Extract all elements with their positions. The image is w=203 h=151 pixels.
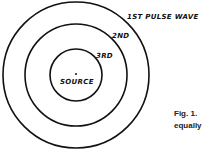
label-source: SOURCE (60, 78, 94, 86)
pulse-wave-diagram (0, 0, 203, 151)
figure-caption-line2: equally (174, 121, 202, 130)
source-point (75, 73, 77, 75)
label-3rd: 3RD (96, 52, 113, 60)
figure-caption-line1: Fig. 1. (174, 109, 197, 118)
label-1st-pulse-wave: 1ST PULSE WAVE (127, 13, 198, 21)
label-2nd: 2ND (112, 32, 129, 40)
